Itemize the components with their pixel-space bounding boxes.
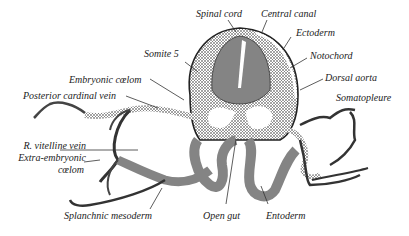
label-splanchnic-mesoderm: Splanchnic mesoderm	[64, 210, 152, 221]
label-open-gut: Open gut	[203, 210, 240, 221]
diagram-drawing	[0, 0, 409, 236]
label-coelom: cœlom	[6, 164, 84, 175]
label-spinal-cord: Spinal cord	[196, 8, 242, 19]
label-central-canal: Central canal	[261, 8, 316, 19]
embryo-cross-section-figure: Spinal cord Central canal Ectoderm Somit…	[0, 0, 409, 236]
label-posterior-cardinal-vein: Posterior cardinal vein	[23, 90, 116, 101]
caption-fragment	[0, 230, 409, 236]
right-membranes	[300, 109, 368, 185]
label-ectoderm: Ectoderm	[296, 27, 335, 38]
label-r-vitelline-vein: R. vitelline vein	[6, 140, 86, 151]
label-notochord: Notochord	[310, 50, 352, 61]
label-extra-embryonic: Extra-embryonic	[6, 152, 86, 163]
label-somatopleure: Somatopleure	[336, 92, 391, 103]
label-entoderm: Entoderm	[266, 210, 305, 221]
label-embryonic-coelom: Embryonic cœlom	[69, 74, 142, 85]
label-dorsal-aorta: Dorsal aorta	[325, 72, 377, 83]
label-somite: Somite 5	[144, 48, 179, 59]
neural-tube-body	[189, 28, 298, 140]
